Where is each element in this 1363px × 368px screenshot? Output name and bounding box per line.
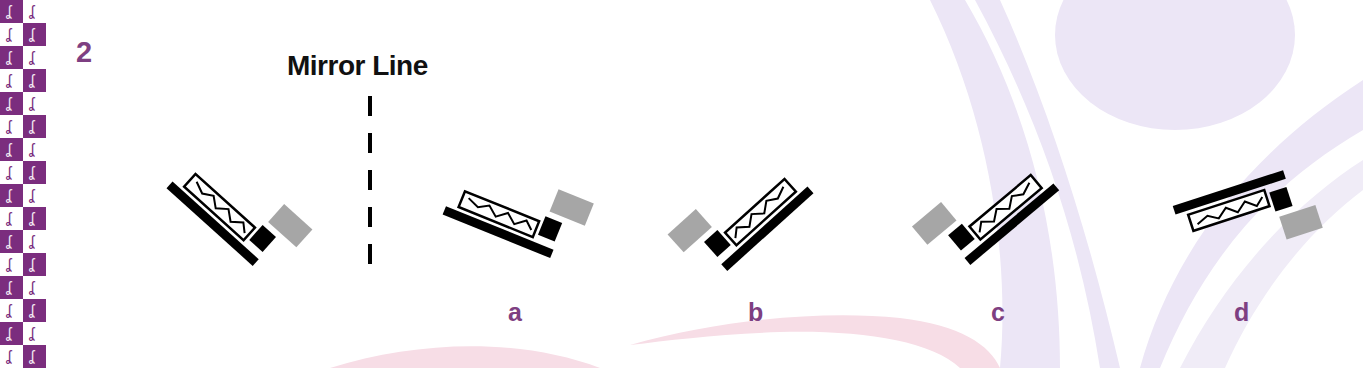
option-d-label[interactable]: d — [1234, 298, 1249, 327]
option-c-shape[interactable] — [912, 139, 1059, 278]
figures-canvas — [0, 0, 1363, 368]
option-a-label[interactable]: a — [508, 298, 522, 327]
option-d-shape[interactable] — [1173, 164, 1323, 270]
option-a-shape[interactable] — [443, 152, 594, 265]
option-b-shape[interactable] — [668, 143, 814, 284]
option-c-label[interactable]: c — [991, 298, 1005, 327]
option-b-label[interactable]: b — [748, 298, 763, 327]
original-shape — [167, 138, 313, 279]
